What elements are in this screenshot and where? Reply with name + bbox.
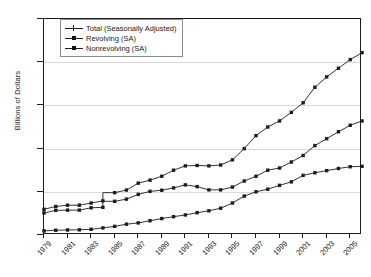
data-point-marker: [349, 58, 352, 61]
data-point-marker: [301, 154, 304, 157]
data-point-marker: [254, 134, 257, 137]
data-point-marker: [172, 169, 175, 172]
data-point-marker: [160, 189, 163, 192]
legend-marker-icon: [65, 33, 83, 43]
data-point-marker: [78, 228, 81, 231]
data-point-marker: [207, 188, 210, 191]
data-point-marker: [137, 221, 140, 224]
data-point-marker: [266, 188, 269, 191]
data-point-marker: [66, 228, 69, 231]
data-point-marker: [278, 184, 281, 187]
data-point-marker: [113, 200, 116, 203]
data-point-marker: [337, 67, 340, 70]
data-point-marker: [219, 163, 222, 166]
y-axis-title: Billions of Dollars: [13, 46, 22, 156]
data-point-marker: [243, 179, 246, 182]
data-point-marker: [337, 167, 340, 170]
data-point-marker: [66, 203, 69, 206]
data-point-marker: [266, 125, 269, 128]
legend-label: Total (Seasonally Adjusted): [86, 24, 176, 33]
data-point-marker: [54, 229, 57, 232]
data-point-marker: [231, 185, 234, 188]
data-point-marker: [337, 130, 340, 133]
data-point-marker: [148, 190, 151, 193]
data-point-marker: [290, 160, 293, 163]
data-point-marker: [290, 180, 293, 183]
data-point-marker: [278, 119, 281, 122]
legend-label: Revolving (SA): [86, 34, 136, 43]
data-point-marker: [325, 169, 328, 172]
data-point-marker: [266, 169, 269, 172]
data-point-marker: [349, 124, 352, 127]
legend-marker-icon: [65, 23, 83, 33]
data-point-marker: [137, 181, 140, 184]
series-line: [115, 53, 362, 193]
data-point-marker: [89, 228, 92, 231]
data-point-marker: [360, 119, 363, 122]
series-line: [44, 166, 362, 231]
data-point-marker: [125, 223, 128, 226]
data-point-marker: [278, 166, 281, 169]
data-point-marker: [231, 201, 234, 204]
data-point-marker: [42, 208, 45, 211]
data-point-marker: [89, 201, 92, 204]
data-point-marker: [231, 158, 234, 161]
data-point-marker: [42, 229, 45, 232]
data-point-marker: [125, 197, 128, 200]
data-point-marker: [254, 190, 257, 193]
data-point-marker: [113, 191, 116, 194]
data-point-marker: [219, 207, 222, 210]
data-point-marker: [254, 175, 257, 178]
legend-item: Revolving (SA): [65, 33, 176, 43]
data-point-marker: [290, 111, 293, 114]
data-point-marker: [54, 209, 57, 212]
data-point-marker: [78, 203, 81, 206]
data-point-marker: [160, 175, 163, 178]
data-point-marker: [325, 75, 328, 78]
data-point-marker: [313, 171, 316, 174]
data-point-marker: [125, 188, 128, 191]
data-point-marker: [243, 147, 246, 150]
legend-item: Total (Seasonally Adjusted): [65, 23, 176, 33]
data-point-marker: [78, 208, 81, 211]
data-point-marker: [195, 185, 198, 188]
data-point-marker: [66, 208, 69, 211]
data-point-marker: [184, 213, 187, 216]
data-point-marker: [349, 165, 352, 168]
data-point-marker: [184, 164, 187, 167]
data-point-marker: [113, 225, 116, 228]
data-point-marker: [172, 215, 175, 218]
data-point-marker: [54, 205, 57, 208]
data-point-marker: [148, 178, 151, 181]
data-point-marker: [184, 183, 187, 186]
series-line: [44, 207, 103, 213]
data-point-marker: [301, 174, 304, 177]
data-point-marker: [360, 165, 363, 168]
data-point-marker: [101, 206, 104, 209]
data-point-marker: [195, 164, 198, 167]
data-point-marker: [313, 144, 316, 147]
legend: Total (Seasonally Adjusted)Revolving (SA…: [60, 19, 183, 57]
data-point-marker: [172, 186, 175, 189]
data-point-marker: [313, 86, 316, 89]
data-point-marker: [195, 211, 198, 214]
legend-item: Nonrevolving (SA): [65, 43, 176, 53]
legend-label: Nonrevolving (SA): [86, 44, 147, 53]
data-point-marker: [160, 217, 163, 220]
data-point-marker: [301, 101, 304, 104]
data-point-marker: [207, 209, 210, 212]
data-point-marker: [207, 164, 210, 167]
data-point-marker: [360, 51, 363, 54]
legend-marker-icon: [65, 43, 83, 53]
data-point-marker: [101, 226, 104, 229]
data-point-marker: [137, 193, 140, 196]
data-point-marker: [148, 219, 151, 222]
data-point-marker: [243, 194, 246, 197]
series-line: [115, 121, 362, 201]
data-point-marker: [89, 206, 92, 209]
data-point-marker: [219, 188, 222, 191]
consumer-credit-chart: Billions of Dollars 05001000150020002500…: [0, 0, 371, 277]
data-point-marker: [325, 137, 328, 140]
data-point-marker: [42, 211, 45, 214]
